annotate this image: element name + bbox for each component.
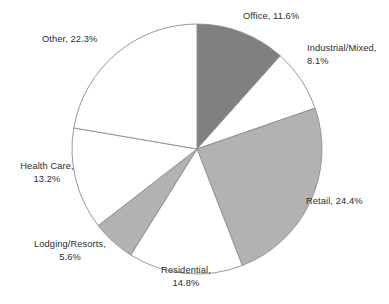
pie-label-lodging-resorts-value: 5.6%	[18, 251, 122, 264]
pie-label-residential-value: 14.8%	[140, 277, 232, 290]
pie-chart: Office, 11.6% Industrial/Mixed, 8.1% Ret…	[0, 0, 389, 304]
pie-label-office-text: Office, 11.6%	[243, 10, 299, 23]
pie-label-other: Other, 22.3%	[42, 33, 97, 46]
pie-label-retail-text: Retail, 24.4%	[306, 195, 363, 208]
pie-label-health-care-text: Health Care,	[10, 160, 84, 173]
pie-label-industrial-mixed: Industrial/Mixed, 8.1%	[307, 42, 376, 67]
pie-label-retail: Retail, 24.4%	[306, 195, 363, 208]
pie-label-residential: Residential, 14.8%	[140, 264, 232, 289]
pie-label-industrial-mixed-text: Industrial/Mixed,	[307, 42, 376, 55]
pie-label-health-care-value: 13.2%	[10, 173, 84, 186]
pie-label-other-text: Other, 22.3%	[42, 33, 97, 46]
pie-label-industrial-mixed-value: 8.1%	[307, 55, 376, 68]
pie-slices-group	[72, 24, 322, 274]
pie-label-health-care: Health Care, 13.2%	[10, 160, 84, 185]
pie-label-lodging-resorts-text: Lodging/Resorts,	[18, 238, 122, 251]
pie-label-residential-text: Residential,	[140, 264, 232, 277]
pie-label-office: Office, 11.6%	[243, 10, 299, 23]
pie-label-lodging-resorts: Lodging/Resorts, 5.6%	[18, 238, 122, 263]
